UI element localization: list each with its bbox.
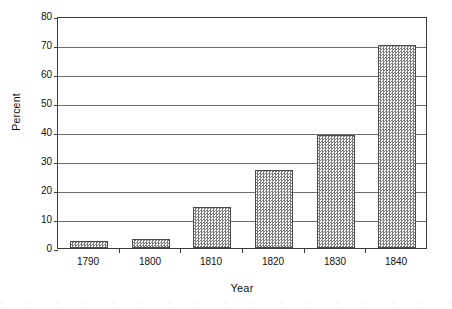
y-tick-mark: [54, 76, 58, 77]
y-tick-label: 70: [4, 41, 52, 51]
x-axis-tick-labels: 179018001810182018301840: [57, 256, 427, 270]
bar-chart-figure: Percent 01020304050607080 17901800181018…: [0, 0, 452, 309]
x-tick-mark: [119, 249, 120, 253]
bars-layer: [58, 18, 426, 248]
y-tick-label: 30: [4, 157, 52, 167]
y-tick-mark: [54, 18, 58, 19]
x-tick-mark: [242, 249, 243, 253]
x-tick-label: 1810: [186, 256, 236, 268]
y-tick-mark: [54, 105, 58, 106]
x-tick-label: 1820: [248, 256, 298, 268]
y-tick-label: 80: [4, 12, 52, 22]
plot-area: [57, 17, 427, 249]
y-axis-tick-labels: 01020304050607080: [0, 0, 52, 309]
x-tick-label: 1800: [125, 256, 175, 268]
y-tick-label: 60: [4, 70, 52, 80]
bar: [255, 170, 293, 248]
bar: [193, 207, 231, 248]
x-axis-title: Year: [57, 282, 427, 294]
y-tick-mark: [54, 192, 58, 193]
x-tick-label: 1790: [63, 256, 113, 268]
y-tick-label: 50: [4, 99, 52, 109]
y-tick-mark: [54, 134, 58, 135]
y-tick-label: 10: [4, 215, 52, 225]
y-tick-mark: [54, 47, 58, 48]
y-tick-mark: [54, 221, 58, 222]
x-tick-mark: [365, 249, 366, 253]
bar: [378, 45, 416, 248]
x-tick-mark: [180, 249, 181, 253]
y-tick-label: 20: [4, 186, 52, 196]
scan-artifact-strip: [0, 301, 452, 306]
x-tick-mark: [304, 249, 305, 253]
x-tick-label: 1830: [310, 256, 360, 268]
bar: [132, 239, 170, 248]
y-tick-label: 40: [4, 128, 52, 138]
x-axis-tick-marks: [57, 249, 427, 254]
bar: [317, 135, 355, 248]
y-tick-label: 0: [4, 244, 52, 254]
bar: [70, 241, 108, 248]
x-tick-label: 1840: [371, 256, 421, 268]
y-tick-mark: [54, 163, 58, 164]
